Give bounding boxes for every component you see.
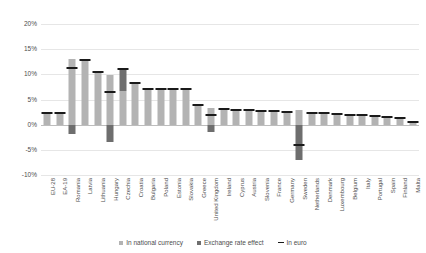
- y-axis-tick-label: -5%: [3, 147, 37, 154]
- legend-swatch-icon: [278, 242, 284, 244]
- euro-value-marker: [281, 111, 292, 113]
- bar-slot: [406, 24, 419, 175]
- bar-group: [41, 24, 419, 175]
- x-axis-tick-label: Estonia: [176, 178, 182, 198]
- bar-slot: [343, 24, 356, 175]
- bar-segment-national-currency: [56, 113, 63, 125]
- y-axis-tick-label: 10%: [3, 71, 37, 78]
- bar-slot: [192, 24, 205, 175]
- bar-slot: [205, 24, 218, 175]
- x-axis-tick-label: Romania: [75, 178, 81, 202]
- bar-slot: [369, 24, 382, 175]
- bar-slot: [66, 24, 79, 175]
- euro-value-marker: [130, 82, 141, 84]
- euro-value-marker: [80, 59, 91, 61]
- x-axis-tick-label: Slovakia: [188, 178, 194, 201]
- bar-segment-national-currency: [334, 114, 341, 125]
- bar-slot: [230, 24, 243, 175]
- bar-segment-exchange-rate-effect: [208, 125, 215, 132]
- x-axis-tick-label: EU-28: [50, 178, 56, 195]
- bar-segment-exchange-rate-effect: [296, 125, 303, 161]
- legend-swatch-icon: [119, 241, 123, 245]
- euro-value-marker: [332, 113, 343, 115]
- bar-slot: [381, 24, 394, 175]
- euro-value-marker: [256, 110, 267, 112]
- legend-swatch-icon: [197, 241, 201, 245]
- euro-value-marker: [105, 91, 116, 93]
- legend-label: In national currency: [126, 239, 183, 246]
- bar-slot: [154, 24, 167, 175]
- bar-slot: [268, 24, 281, 175]
- x-axis-tick-label: EA-19: [62, 178, 68, 195]
- bar-segment-national-currency: [220, 109, 227, 125]
- chart-container: 20%15%10%5%0%-5%-10% EU-28EA-19RomaniaLa…: [0, 0, 426, 253]
- bar-slot: [117, 24, 130, 175]
- x-axis-tick-label: Sweden: [302, 178, 308, 200]
- chart-legend: In national currencyExchange rate effect…: [0, 239, 426, 246]
- x-axis-tick-label: Luxembourg: [339, 178, 345, 211]
- plot-area: [41, 24, 419, 175]
- bar-slot: [104, 24, 117, 175]
- bar-segment-national-currency: [384, 117, 391, 125]
- y-axis-tick-label: 0%: [3, 122, 37, 129]
- bar-slot: [255, 24, 268, 175]
- bar-segment-national-currency: [359, 115, 366, 125]
- x-axis-tick-label: Slovenia: [264, 178, 270, 201]
- euro-value-marker: [319, 112, 330, 114]
- x-axis-tick-label: Netherlands: [314, 178, 320, 210]
- x-axis-tick-label: Spain: [390, 178, 396, 193]
- x-axis-tick-label: United Kingdom: [213, 178, 219, 221]
- x-axis-tick-label: Czechia: [125, 178, 131, 200]
- bar-slot: [91, 24, 104, 175]
- euro-value-marker: [193, 104, 204, 106]
- x-axis-tick-label: Ireland: [226, 178, 232, 196]
- bar-slot: [41, 24, 54, 175]
- bar-slot: [293, 24, 306, 175]
- bar-segment-national-currency: [94, 72, 101, 124]
- bar-segment-national-currency: [371, 116, 378, 125]
- y-axis-tick-label: 15%: [3, 46, 37, 53]
- bar-slot: [54, 24, 67, 175]
- bar-slot: [167, 24, 180, 175]
- euro-value-marker: [243, 109, 254, 111]
- euro-value-marker: [143, 88, 154, 90]
- bar-slot: [306, 24, 319, 175]
- euro-value-marker: [67, 67, 78, 69]
- bar-segment-national-currency: [195, 105, 202, 125]
- x-axis-tick-label: Lithuania: [100, 178, 106, 202]
- x-axis-tick-label: Greece: [201, 178, 207, 198]
- x-axis-tick-label: France: [276, 178, 282, 197]
- euro-value-marker: [395, 117, 406, 119]
- bar-segment-national-currency: [208, 108, 215, 125]
- x-axis-labels: EU-28EA-19RomaniaLatviaLithuaniaHungaryC…: [41, 178, 419, 236]
- euro-value-marker: [357, 114, 368, 116]
- x-axis-tick-label: Finland: [402, 178, 408, 198]
- bar-segment-national-currency: [346, 115, 353, 125]
- legend-item[interactable]: In euro: [278, 239, 307, 246]
- euro-value-marker: [117, 68, 128, 70]
- bar-slot: [318, 24, 331, 175]
- euro-value-marker: [306, 112, 317, 114]
- euro-value-marker: [218, 108, 229, 110]
- bar-segment-national-currency: [82, 60, 89, 124]
- bar-segment-national-currency: [182, 89, 189, 124]
- bar-segment-national-currency: [44, 113, 51, 125]
- bar-slot: [243, 24, 256, 175]
- bar-segment-exchange-rate-effect: [119, 69, 126, 92]
- bar-slot: [356, 24, 369, 175]
- bar-segment-national-currency: [145, 89, 152, 124]
- gridline: [41, 175, 419, 176]
- legend-item[interactable]: In national currency: [119, 239, 183, 246]
- x-axis-tick-label: Austria: [251, 178, 257, 197]
- bar-segment-national-currency: [233, 110, 240, 125]
- euro-value-marker: [206, 114, 217, 116]
- bar-slot: [79, 24, 92, 175]
- euro-value-marker: [269, 110, 280, 112]
- euro-value-marker: [294, 144, 305, 146]
- euro-value-marker: [155, 88, 166, 90]
- x-axis-tick-label: Hungary: [113, 178, 119, 201]
- x-axis-tick-label: Denmark: [327, 178, 333, 202]
- legend-item[interactable]: Exchange rate effect: [197, 239, 264, 246]
- x-axis-tick-label: Latvia: [87, 178, 93, 194]
- euro-value-marker: [369, 115, 380, 117]
